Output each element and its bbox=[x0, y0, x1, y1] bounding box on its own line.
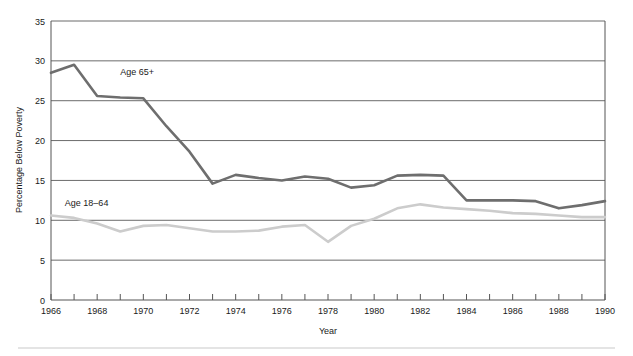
gridlines bbox=[51, 21, 605, 260]
x-tick-label: 1972 bbox=[179, 306, 199, 316]
poverty-line-chart: 05101520253035 1966196819701972197419761… bbox=[0, 0, 633, 356]
x-tick-label: 1978 bbox=[318, 306, 338, 316]
y-tick-label: 15 bbox=[35, 176, 45, 186]
y-tick-label: 25 bbox=[35, 96, 45, 106]
x-tick-label: 1988 bbox=[549, 306, 569, 316]
data-series-lines bbox=[51, 65, 605, 242]
series-annotations: Age 65+Age 18–64 bbox=[65, 67, 154, 208]
series-label-age-65-: Age 65+ bbox=[120, 67, 154, 77]
y-tick-label: 5 bbox=[40, 256, 45, 266]
x-axis-title: Year bbox=[319, 326, 337, 336]
x-tick-label: 1974 bbox=[226, 306, 246, 316]
series-label-age-18-64: Age 18–64 bbox=[65, 198, 109, 208]
x-tick-label: 1986 bbox=[503, 306, 523, 316]
x-tick-label: 1976 bbox=[272, 306, 292, 316]
y-axis-tick-labels: 05101520253035 bbox=[35, 17, 45, 306]
x-tick-label: 1968 bbox=[87, 306, 107, 316]
x-tick-label: 1990 bbox=[595, 306, 615, 316]
x-axis-ticks bbox=[51, 294, 605, 300]
y-tick-label: 0 bbox=[40, 296, 45, 306]
plot-frame bbox=[51, 21, 605, 300]
y-tick-label: 10 bbox=[35, 216, 45, 226]
x-tick-label: 1984 bbox=[456, 306, 476, 316]
y-tick-label: 30 bbox=[35, 56, 45, 66]
x-tick-label: 1980 bbox=[364, 306, 384, 316]
x-tick-label: 1966 bbox=[41, 306, 61, 316]
x-tick-label: 1970 bbox=[133, 306, 153, 316]
x-tick-label: 1982 bbox=[410, 306, 430, 316]
chart-canvas: 05101520253035 1966196819701972197419761… bbox=[0, 0, 633, 356]
y-tick-label: 20 bbox=[35, 136, 45, 146]
series-line-age-18-64 bbox=[51, 204, 605, 241]
y-tick-label: 35 bbox=[35, 17, 45, 27]
x-axis-tick-labels: 1966196819701972197419761978198019821984… bbox=[41, 306, 615, 316]
y-axis-title: Percentage Below Poverty bbox=[14, 106, 24, 213]
series-line-age-65- bbox=[51, 65, 605, 208]
